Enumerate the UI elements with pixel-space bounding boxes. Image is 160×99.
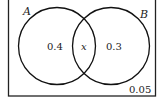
region-intersection: x	[81, 41, 87, 52]
region-b-only: 0.3	[106, 41, 122, 52]
set-a-label: A	[22, 5, 31, 18]
region-outside: 0.05	[129, 84, 151, 95]
venn-diagram: A B 0.4 x 0.3 0.05	[0, 0, 160, 99]
set-b-label: B	[139, 8, 148, 21]
region-a-only: 0.4	[47, 41, 63, 52]
